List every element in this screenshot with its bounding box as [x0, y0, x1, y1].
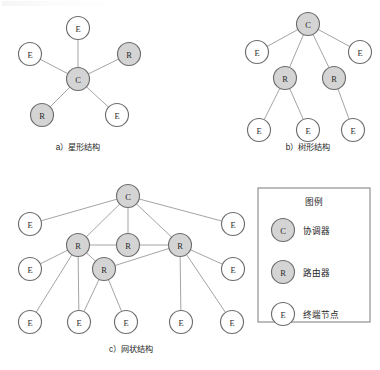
legend-swatch-symbol: R — [280, 268, 286, 278]
node-router-m_r3: R — [169, 234, 192, 257]
node-label: E — [178, 318, 183, 328]
node-router-m_r2: R — [117, 234, 140, 257]
edge-t_r2-t_e5 — [338, 89, 349, 119]
node-router-t_r2: R — [323, 67, 346, 90]
node-label: E — [27, 220, 32, 230]
node-label: E — [27, 318, 32, 328]
node-label: C — [75, 75, 81, 85]
node-endnode-m_e4: E — [222, 258, 245, 281]
legend-border — [258, 188, 370, 322]
node-endnode-t_e1: E — [246, 41, 269, 64]
node-label: C — [125, 192, 131, 202]
node-endnode-s_e1: E — [67, 17, 90, 40]
edge-m_r4-m_e6 — [84, 279, 99, 311]
node-label: C — [305, 20, 311, 30]
node-label: E — [123, 318, 128, 328]
node-label: R — [177, 241, 183, 251]
edge-s_c-s_r1 — [88, 59, 118, 74]
node-endnode-t_e3: E — [248, 119, 271, 142]
node-router-m_r4: R — [93, 258, 116, 281]
edge-t_c-t_e2 — [318, 29, 350, 46]
legend-item-label: 路由器 — [303, 267, 330, 278]
node-endnode-m_e1: E — [19, 213, 42, 236]
node-endnode-s_e3: E — [106, 104, 129, 127]
legend-item-label: 协调器 — [303, 225, 330, 236]
edge-m_r3-m_e8 — [180, 257, 181, 311]
node-label: E — [230, 265, 235, 275]
node-endnode-m_e2: E — [222, 213, 245, 236]
legend-swatch-symbol: C — [280, 226, 286, 236]
node-coordinator-m_c: C — [117, 185, 140, 208]
edge-m_r1-m_e6 — [78, 257, 79, 311]
edge-t_c-t_r2 — [313, 34, 329, 67]
legend-title: 图例 — [305, 196, 323, 207]
node-endnode-m_e7: E — [115, 311, 138, 334]
edge-m_c-m_r3 — [136, 204, 171, 237]
caption-mesh: c）网状结构 — [109, 344, 153, 354]
node-label: E — [256, 126, 261, 136]
network-topology-diagram: CEERRECEERREEECEERRRREEEEEEE a）星形结构b）树形结… — [0, 0, 380, 370]
node-router-m_r1: R — [67, 234, 90, 257]
edge-m_r4-m_e7 — [108, 280, 121, 312]
node-label: E — [114, 111, 119, 121]
node-label: E — [27, 265, 32, 275]
legend-swatch-symbol: E — [280, 310, 285, 320]
legend-item-label: 终端节点 — [303, 309, 339, 320]
node-endnode-t_e2: E — [349, 41, 372, 64]
edge-s_c-s_r2 — [50, 87, 70, 107]
node-coordinator-t_c: C — [297, 13, 320, 36]
node-coordinator-s_c: C — [67, 68, 90, 91]
edge-t_r1-t_e4 — [290, 89, 304, 120]
edge-t_c-t_e1 — [267, 30, 298, 47]
node-label: E — [305, 126, 310, 136]
edge-t_c-t_r1 — [290, 35, 304, 68]
node-endnode-m_e6: E — [68, 311, 91, 334]
node-label: R — [75, 241, 81, 251]
node-label: E — [76, 318, 81, 328]
legend-group: 图例C协调器R路由器E终端节点 — [258, 188, 370, 326]
node-label: R — [126, 50, 132, 60]
edge-s_c-s_e3 — [86, 87, 108, 107]
node-router-s_r2: R — [31, 104, 54, 127]
node-label: R — [282, 74, 288, 84]
node-label: R — [39, 111, 45, 121]
node-router-t_r1: R — [274, 67, 297, 90]
node-router-s_r1: R — [118, 43, 141, 66]
figure-root: CEERRECEERREEECEERRRREEEEEEE a）星形结构b）树形结… — [0, 0, 380, 370]
node-label: E — [230, 220, 235, 230]
node-label: E — [357, 48, 362, 58]
node-endnode-m_e3: E — [19, 258, 42, 281]
edge-s_c-s_e2 — [40, 59, 68, 73]
node-label: E — [229, 318, 234, 328]
node-endnode-t_e4: E — [297, 119, 320, 142]
node-endnode-t_e5: E — [342, 119, 365, 142]
edge-t_r1-t_e3 — [264, 88, 280, 119]
node-label: E — [27, 50, 32, 60]
node-endnode-m_e8: E — [170, 311, 193, 334]
edge-m_r1-m_e3 — [40, 250, 67, 264]
node-endnode-m_e9: E — [221, 311, 244, 334]
node-endnode-m_e5: E — [19, 311, 42, 334]
node-label: R — [101, 265, 107, 275]
node-label: E — [75, 24, 80, 34]
caption-star: a）星形结构 — [56, 142, 101, 152]
node-label: R — [125, 241, 131, 251]
caption-tree: b）树形结构 — [286, 142, 331, 152]
node-label: E — [254, 48, 259, 58]
edge-m_r3-m_e4 — [190, 250, 222, 265]
node-label: E — [350, 126, 355, 136]
node-label: R — [331, 74, 337, 84]
edge-m_c-m_r1 — [86, 204, 120, 237]
node-endnode-s_e2: E — [19, 43, 42, 66]
edge-m_r1-m_r4 — [86, 253, 95, 261]
